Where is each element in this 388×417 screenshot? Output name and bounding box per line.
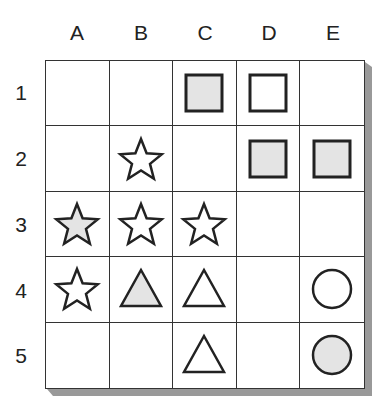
column-label-c: C <box>173 20 237 46</box>
cell-e4 <box>300 257 364 322</box>
grid-shadow-right <box>365 62 372 396</box>
white-star-icon <box>53 265 101 313</box>
cell-a4 <box>46 257 110 322</box>
grid-shadow-bottom <box>47 389 372 396</box>
cell-a2 <box>46 126 110 191</box>
white-star-icon <box>180 200 228 248</box>
row-label-3: 3 <box>10 212 32 238</box>
cell-d1 <box>237 61 301 126</box>
cell-e3 <box>300 192 364 257</box>
cell-a3 <box>46 192 110 257</box>
cell-d5 <box>237 323 301 388</box>
row-label-5: 5 <box>10 343 32 369</box>
cell-a5 <box>46 323 110 388</box>
cell-c4 <box>173 257 237 322</box>
white-star-icon <box>117 200 165 248</box>
white-triangle-icon <box>180 265 228 313</box>
cell-b4 <box>110 257 174 322</box>
cell-d2 <box>237 126 301 191</box>
cell-e2 <box>300 126 364 191</box>
column-label-e: E <box>301 20 365 46</box>
shape-grid <box>45 60 365 389</box>
cell-c5 <box>173 323 237 388</box>
cell-b1 <box>110 61 174 126</box>
cell-e5 <box>300 323 364 388</box>
cell-b5 <box>110 323 174 388</box>
gray-star-icon <box>53 200 101 248</box>
cell-b3 <box>110 192 174 257</box>
cell-c2 <box>173 126 237 191</box>
row-label-2: 2 <box>10 146 32 172</box>
column-label-d: D <box>237 20 301 46</box>
gray-square-icon <box>308 135 356 183</box>
column-label-a: A <box>45 20 109 46</box>
row-label-1: 1 <box>10 80 32 106</box>
white-circle-icon <box>308 265 356 313</box>
cell-b2 <box>110 126 174 191</box>
cell-d4 <box>237 257 301 322</box>
gray-square-icon <box>180 69 228 117</box>
cell-d3 <box>237 192 301 257</box>
cell-c1 <box>173 61 237 126</box>
gray-circle-icon <box>308 331 356 379</box>
column-label-b: B <box>109 20 173 46</box>
white-triangle-icon <box>180 331 228 379</box>
cell-c3 <box>173 192 237 257</box>
white-square-icon <box>244 69 292 117</box>
white-star-icon <box>117 135 165 183</box>
cell-a1 <box>46 61 110 126</box>
gray-triangle-icon <box>117 265 165 313</box>
gray-square-icon <box>244 135 292 183</box>
row-label-4: 4 <box>10 278 32 304</box>
cell-e1 <box>300 61 364 126</box>
